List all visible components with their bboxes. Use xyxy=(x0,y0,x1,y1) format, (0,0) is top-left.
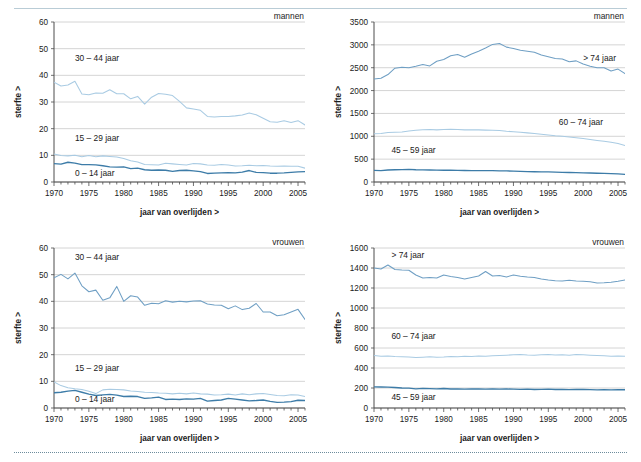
x-tick-label: 1990 xyxy=(504,189,523,198)
chart-panel-vrouwen-jong: 0102030405060197019751980198519901995200… xyxy=(8,236,313,452)
x-axis-title: jaar van overlijden > xyxy=(139,434,219,443)
sex-label: mannen xyxy=(274,11,305,21)
x-tick-label: 1975 xyxy=(400,415,419,424)
series-annotation: > 74 jaar xyxy=(583,53,616,63)
series-annotation: 60 – 74 jaar xyxy=(559,117,603,127)
sex-label: vrouwen xyxy=(272,237,304,247)
x-tick-label: 2000 xyxy=(254,415,273,424)
y-tick-label: 10 xyxy=(39,377,49,386)
series-annotation: 60 – 74 jaar xyxy=(391,331,435,341)
x-axis-title: jaar van overlijden > xyxy=(459,208,539,217)
x-tick-label: 1985 xyxy=(469,415,488,424)
series-annotation: 30 – 44 jaar xyxy=(75,53,119,63)
x-tick-label: 2000 xyxy=(574,415,593,424)
y-tick-label: 1500 xyxy=(350,109,369,118)
series-line xyxy=(54,154,305,168)
y-tick-label: 400 xyxy=(354,364,368,373)
x-axis-title: jaar van overlijden > xyxy=(459,434,539,443)
series-line xyxy=(54,273,305,319)
y-tick-label: 2000 xyxy=(350,87,369,96)
series-line xyxy=(374,355,625,358)
x-tick-label: 1980 xyxy=(115,415,134,424)
series-annotation: 0 – 14 jaar xyxy=(75,168,115,178)
x-tick-label: 1980 xyxy=(435,189,454,198)
x-tick-label: 1975 xyxy=(400,189,419,198)
x-tick-label: 1990 xyxy=(504,415,523,424)
x-tick-label: 2000 xyxy=(254,189,273,198)
y-tick-label: 1400 xyxy=(350,264,369,273)
x-tick-label: 2005 xyxy=(289,415,308,424)
y-tick-label: 0 xyxy=(43,178,48,187)
y-tick-label: 0 xyxy=(363,404,368,413)
y-tick-label: 0 xyxy=(363,178,368,187)
chart-panel-vrouwen-oud: 0200400600800100012001400160019701975198… xyxy=(328,236,633,452)
y-tick-label: 1200 xyxy=(350,284,369,293)
y-tick-label: 1000 xyxy=(350,132,369,141)
series-annotation: 45 – 59 jaar xyxy=(391,392,435,402)
y-tick-label: 3000 xyxy=(350,41,369,50)
series-line xyxy=(374,129,625,145)
x-tick-label: 1990 xyxy=(184,415,203,424)
x-tick-label: 2000 xyxy=(574,189,593,198)
x-tick-label: 1970 xyxy=(365,415,384,424)
y-tick-label: 2500 xyxy=(350,64,369,73)
x-tick-label: 1970 xyxy=(45,415,64,424)
y-tick-label: 30 xyxy=(39,324,49,333)
y-tick-label: 1600 xyxy=(350,244,369,253)
x-tick-label: 1975 xyxy=(80,189,99,198)
x-tick-label: 1985 xyxy=(469,189,488,198)
x-tick-label: 1990 xyxy=(184,189,203,198)
x-tick-label: 1995 xyxy=(539,415,558,424)
x-tick-label: 1995 xyxy=(219,189,238,198)
y-tick-label: 3500 xyxy=(350,18,369,27)
x-tick-label: 1980 xyxy=(435,415,454,424)
y-tick-label: 1000 xyxy=(350,304,369,313)
x-axis-title: jaar van overlijden > xyxy=(139,208,219,217)
y-axis-title: sterfte > xyxy=(14,86,23,118)
series-annotation: 15 – 29 jaar xyxy=(75,363,119,373)
x-tick-label: 2005 xyxy=(609,189,628,198)
sex-label: vrouwen xyxy=(592,237,624,247)
x-tick-label: 1995 xyxy=(219,415,238,424)
y-tick-label: 800 xyxy=(354,324,368,333)
y-tick-label: 200 xyxy=(354,384,368,393)
x-tick-label: 2005 xyxy=(609,415,628,424)
series-annotation: 30 – 44 jaar xyxy=(75,252,119,262)
y-axis-title: sterfte > xyxy=(334,86,343,118)
y-tick-label: 30 xyxy=(39,98,49,107)
series-annotation: 0 – 14 jaar xyxy=(75,394,115,404)
y-tick-label: 20 xyxy=(39,125,49,134)
y-tick-label: 60 xyxy=(39,18,49,27)
y-tick-label: 40 xyxy=(39,297,49,306)
x-tick-label: 2005 xyxy=(289,189,308,198)
x-tick-label: 1975 xyxy=(80,415,99,424)
y-tick-label: 10 xyxy=(39,151,49,160)
y-tick-label: 20 xyxy=(39,351,49,360)
y-tick-label: 600 xyxy=(354,344,368,353)
y-tick-label: 40 xyxy=(39,71,49,80)
y-tick-label: 500 xyxy=(354,155,368,164)
series-annotation: 45 – 59 jaar xyxy=(391,145,435,155)
x-tick-label: 1985 xyxy=(149,415,168,424)
y-axis-title: sterfte > xyxy=(334,312,343,344)
series-annotation: > 74 jaar xyxy=(391,250,424,260)
x-tick-label: 1985 xyxy=(149,189,168,198)
y-tick-label: 60 xyxy=(39,244,49,253)
x-tick-label: 1995 xyxy=(539,189,558,198)
x-tick-label: 1970 xyxy=(365,189,384,198)
chart-panel-mannen-jong: 0102030405060197019751980198519901995200… xyxy=(8,10,313,226)
sex-label: mannen xyxy=(594,11,625,21)
x-tick-label: 1970 xyxy=(45,189,64,198)
y-tick-label: 50 xyxy=(39,271,49,280)
bottom-dotted-rule xyxy=(14,452,627,453)
y-tick-label: 50 xyxy=(39,45,49,54)
series-annotation: 15 – 29 jaar xyxy=(75,133,119,143)
top-divider-rule xyxy=(14,8,627,9)
chart-panel-mannen-oud: 0500100015002000250030003500197019751980… xyxy=(328,10,633,226)
x-tick-label: 1980 xyxy=(115,189,134,198)
series-line xyxy=(54,81,305,125)
y-tick-label: 0 xyxy=(43,404,48,413)
y-axis-title: sterfte > xyxy=(14,312,23,344)
series-line xyxy=(374,169,625,174)
